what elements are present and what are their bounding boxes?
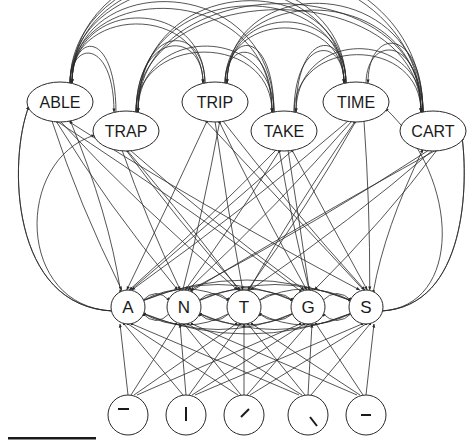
letter-layer: ANTGS: [111, 290, 383, 324]
word-node-take: TAKE: [251, 111, 317, 151]
word-node-trap: TRAP: [93, 111, 159, 151]
word-node-cart: CART: [400, 111, 466, 151]
letter-label: S: [360, 298, 371, 317]
letter-node-t: T: [227, 290, 261, 324]
word-label: TRIP: [197, 94, 233, 111]
word-label: ABLE: [40, 94, 81, 111]
letter-node-s: S: [349, 290, 383, 324]
feature-node-f5: [346, 395, 386, 435]
letter-node-a: A: [111, 290, 145, 324]
letter-label: T: [239, 298, 249, 317]
feature-node-f1: [108, 395, 148, 435]
word-node-time: TIME: [323, 82, 389, 122]
letter-label: G: [301, 298, 314, 317]
word-layer: ABLETRAPTRIPTAKETIMECART: [27, 82, 466, 151]
word-label: TAKE: [264, 123, 305, 140]
word-node-able: ABLE: [27, 82, 93, 122]
feature-node-f4: [288, 395, 328, 435]
word-label: CART: [411, 123, 454, 140]
word-label: TIME: [337, 94, 375, 111]
network-diagram: ABLETRAPTRIPTAKETIMECART ANTGS: [0, 0, 475, 447]
word-node-trip: TRIP: [182, 82, 248, 122]
connection-edges: [18, 0, 464, 395]
feature-layer: [108, 395, 386, 435]
letter-label: A: [122, 298, 134, 317]
word-label: TRAP: [105, 123, 148, 140]
feature-node-f2: [166, 395, 206, 435]
scale-bar: [8, 437, 96, 440]
feature-node-f3: [224, 395, 264, 435]
letter-node-n: N: [167, 290, 201, 324]
letter-label: N: [178, 298, 190, 317]
letter-node-g: G: [291, 290, 325, 324]
